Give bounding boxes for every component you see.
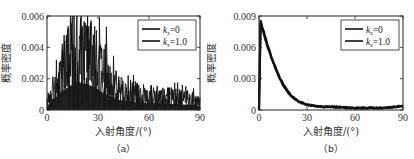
x-tick-label: 90 <box>195 112 205 123</box>
y-tick-label: 0.002 <box>22 73 45 84</box>
figure-caption: （b） <box>318 143 344 154</box>
y-axis-label: 概率密度 <box>0 43 12 83</box>
x-tick-label: 60 <box>350 112 360 123</box>
legend-entry: ks=0 <box>163 25 180 36</box>
y-tick-label: 0.006 <box>234 42 257 53</box>
x-tick-label: 60 <box>144 112 154 123</box>
y-tick-label: 0.009 <box>234 11 257 22</box>
legend-entry: ks=1.0 <box>163 37 187 48</box>
y-tick-label: 0.003 <box>234 73 257 84</box>
y-tick-label: 0 <box>251 105 256 116</box>
chart-b-svg: 030609000.0030.0060.009入射角度/(°)概率密度（b）ks… <box>207 0 414 159</box>
x-tick-label: 0 <box>45 112 50 123</box>
x-tick-label: 30 <box>302 112 312 123</box>
x-tick-label: 30 <box>93 112 103 123</box>
legend-entry: ks=0 <box>366 25 383 36</box>
figure-caption: （a） <box>111 143 137 154</box>
x-axis-label: 入射角度/(°) <box>303 125 359 137</box>
y-tick-label: 0 <box>39 105 44 116</box>
chart-a-svg: 030609000.0020.0040.006入射角度/(°)概率密度（a）ks… <box>0 0 207 159</box>
legend: ks=0ks=1.0 <box>138 20 196 50</box>
chart-panel-a: 030609000.0020.0040.006入射角度/(°)概率密度（a）ks… <box>0 0 207 159</box>
y-axis-label: 概率密度 <box>207 43 217 83</box>
legend-entry: ks=1.0 <box>366 37 390 48</box>
x-tick-label: 90 <box>398 112 408 123</box>
legend: ks=0ks=1.0 <box>341 20 399 50</box>
x-tick-label: 0 <box>257 112 262 123</box>
x-axis-label: 入射角度/(°) <box>95 125 151 137</box>
chart-panel-b: 030609000.0030.0060.009入射角度/(°)概率密度（b）ks… <box>207 0 414 159</box>
y-tick-label: 0.006 <box>22 11 45 22</box>
y-tick-label: 0.004 <box>22 42 45 53</box>
